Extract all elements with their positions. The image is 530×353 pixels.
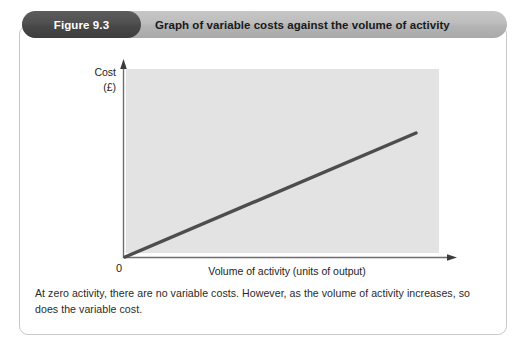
figure-container: Cost (£) 0 Volume of activity (units of …: [19, 25, 507, 335]
origin-label: 0: [116, 262, 122, 274]
figure-number-label: Figure 9.3: [54, 19, 109, 31]
figure-header-bar: Figure 9.3 Graph of variable costs again…: [22, 11, 507, 38]
y-axis-arrowhead: [120, 59, 127, 69]
chart-area: Cost (£) 0 Volume of activity (units of …: [20, 26, 508, 278]
figure-number-badge: Figure 9.3: [22, 11, 141, 38]
y-axis-unit-label: (£): [103, 81, 116, 93]
plot-background: [126, 69, 439, 253]
y-axis-label: Cost: [94, 66, 116, 78]
x-axis-label: Volume of activity (units of output): [208, 265, 366, 277]
figure-caption: At zero activity, there are no variable …: [35, 285, 471, 317]
variable-cost-line-chart: Cost (£) 0 Volume of activity (units of …: [20, 26, 508, 278]
figure-title: Graph of variable costs against the volu…: [155, 11, 450, 38]
x-axis-arrowhead: [447, 254, 457, 261]
